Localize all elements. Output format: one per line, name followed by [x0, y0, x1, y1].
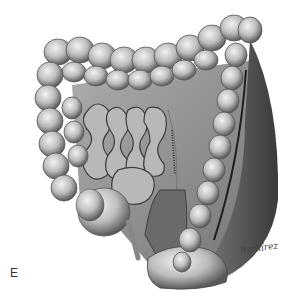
panel-label: E: [10, 266, 18, 280]
colon-drawing: [0, 0, 294, 304]
cecum-bulge: [76, 189, 104, 221]
anatomical-illustration: Ramírez E: [0, 0, 294, 304]
